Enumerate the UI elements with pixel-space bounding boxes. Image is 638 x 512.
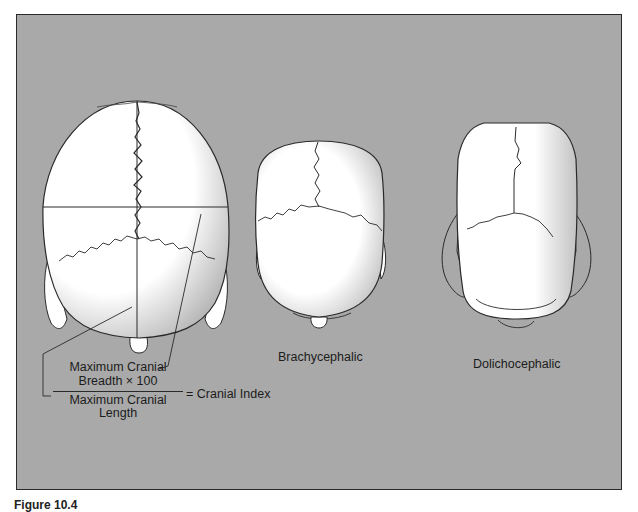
skull-dolichocephalic: [442, 123, 591, 328]
cranial-index-formula: Maximum Cranial Breadth × 100 Maximum Cr…: [53, 361, 183, 421]
label-dolichocephalic: Dolichocephalic: [473, 358, 561, 371]
fraction-bar: [53, 391, 183, 392]
foramen-ridge: [498, 320, 534, 328]
cranium-outline: [457, 123, 577, 319]
figure-frame: Brachycephalic Dolichocephalic Maximum C…: [16, 14, 622, 490]
formula-denominator: Maximum Cranial Length: [53, 394, 183, 422]
figure-caption: Figure 10.4: [14, 498, 77, 512]
formula-result: = Cranial Index: [186, 388, 270, 401]
occipital-protuberance: [311, 317, 327, 328]
formula-denominator-line2: Length: [53, 407, 183, 421]
formula-denominator-line1: Maximum Cranial: [53, 394, 183, 408]
formula-numerator: Maximum Cranial Breadth × 100: [53, 361, 183, 389]
occipital-protuberance: [130, 337, 148, 353]
skull-measured: [43, 101, 229, 396]
label-brachycephalic: Brachycephalic: [278, 351, 363, 364]
cranium-outline: [256, 141, 384, 317]
skull-brachycephalic: [256, 141, 386, 328]
formula-numerator-line2: Breadth × 100: [53, 375, 183, 389]
formula-numerator-line1: Maximum Cranial: [53, 361, 183, 375]
